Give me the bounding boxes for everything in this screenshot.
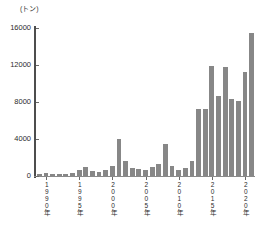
x-axis-tick-mark bbox=[245, 177, 246, 180]
bar bbox=[63, 174, 68, 176]
plot-area bbox=[36, 28, 255, 176]
bar bbox=[50, 174, 55, 176]
y-axis-tick-label: 0 bbox=[27, 171, 31, 180]
x-axis-tick-label: 2005年 bbox=[142, 181, 149, 216]
bar bbox=[123, 161, 128, 176]
bar bbox=[176, 170, 181, 176]
bar bbox=[130, 168, 135, 176]
x-axis-tick-mark bbox=[146, 177, 147, 180]
x-axis-tick-label: 2010年 bbox=[175, 181, 182, 216]
x-axis-tick-mark bbox=[112, 177, 113, 180]
x-axis-tick-label: 2015年 bbox=[209, 181, 216, 216]
x-axis-tick-label: 1990年 bbox=[43, 181, 50, 216]
bar bbox=[216, 96, 221, 176]
bar-chart: (トン) 0400080001200016000 1990年1995年2000年… bbox=[0, 0, 259, 226]
y-axis-tick-label: 12000 bbox=[10, 60, 31, 69]
bar bbox=[190, 161, 195, 176]
x-axis-tick-label: 1995年 bbox=[76, 181, 83, 216]
bar bbox=[196, 109, 201, 176]
bar bbox=[236, 101, 241, 176]
bar bbox=[37, 174, 42, 176]
bar bbox=[209, 66, 214, 176]
bar bbox=[77, 170, 82, 176]
bar bbox=[44, 173, 49, 176]
bar bbox=[163, 144, 168, 176]
bar bbox=[243, 72, 248, 176]
bar bbox=[170, 166, 175, 176]
x-axis-tick-label: 2000年 bbox=[109, 181, 116, 216]
bar bbox=[57, 174, 62, 176]
x-axis-tick-mark bbox=[212, 177, 213, 180]
y-axis-tick-mark bbox=[36, 176, 39, 177]
bar bbox=[103, 170, 108, 176]
x-axis-tick-mark bbox=[79, 177, 80, 180]
bar bbox=[203, 109, 208, 176]
bar bbox=[183, 168, 188, 176]
x-axis-tick-mark bbox=[179, 177, 180, 180]
y-axis-unit-label: (トン) bbox=[20, 3, 39, 13]
bar bbox=[156, 164, 161, 176]
bar bbox=[249, 33, 254, 176]
bar bbox=[97, 172, 102, 176]
bar bbox=[136, 169, 141, 176]
x-axis-tick-mark bbox=[46, 177, 47, 180]
y-axis-tick-label: 4000 bbox=[14, 134, 31, 143]
bar bbox=[229, 99, 234, 176]
bar bbox=[70, 173, 75, 176]
y-axis-tick-label: 8000 bbox=[14, 97, 31, 106]
x-axis-tick-label: 2020年 bbox=[242, 181, 249, 216]
bar bbox=[117, 139, 122, 176]
bar bbox=[143, 170, 148, 176]
bar bbox=[90, 171, 95, 176]
y-axis-tick-label: 16000 bbox=[10, 23, 31, 32]
bar bbox=[223, 67, 228, 176]
bar bbox=[83, 167, 88, 176]
x-axis-line bbox=[34, 176, 255, 177]
bar bbox=[150, 167, 155, 176]
bar bbox=[110, 166, 115, 176]
